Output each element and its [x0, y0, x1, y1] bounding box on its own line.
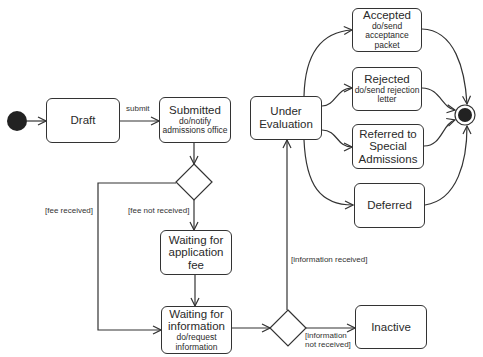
edge-deferred-final — [425, 126, 467, 205]
state-name: Rejected — [364, 73, 409, 86]
edge-referred-final — [424, 120, 455, 146]
state-name: Waiting for information — [163, 308, 231, 333]
state-name: Accepted — [363, 9, 411, 22]
state-waiting-info: Waiting for information do/request infor… — [161, 306, 232, 354]
state-under-evaluation: Under Evaluation — [250, 96, 322, 140]
state-name: Deferred — [367, 199, 412, 212]
state-name: Inactive — [371, 321, 411, 334]
label-fee-received: [fee received] — [45, 206, 93, 215]
initial-node — [7, 111, 27, 131]
state-action: do/send acceptance packet — [361, 22, 413, 51]
state-name: Submitted — [169, 104, 221, 117]
state-name: Referred to Special Admissions — [357, 128, 419, 166]
edge-eval-rejected — [322, 88, 352, 106]
edge-accepted-final — [422, 29, 467, 104]
state-name: Under Evaluation — [254, 105, 318, 130]
state-waiting-fee: Waiting for application fee — [160, 230, 232, 275]
diagram-edges — [0, 0, 483, 357]
state-name: Waiting for application fee — [161, 234, 231, 272]
state-accepted: Accepted do/send acceptance packet — [352, 8, 422, 52]
state-deferred: Deferred — [354, 183, 425, 228]
state-referred: Referred to Special Admissions — [352, 124, 424, 169]
decision-information — [270, 310, 306, 346]
state-rejected: Rejected do/send rejection letter — [352, 67, 422, 111]
label-information-not-received-line1: [information — [305, 331, 347, 340]
label-fee-not-received: [fee not received] — [128, 206, 189, 215]
final-node-core — [458, 108, 472, 122]
state-action: do/notify admissions office — [160, 117, 230, 137]
edge-eval-referred — [322, 130, 352, 147]
state-inactive: Inactive — [355, 305, 427, 349]
decision-fee — [176, 164, 212, 200]
label-information-not-received-line2: not received] — [305, 340, 351, 349]
edge-eval-accepted — [304, 30, 352, 96]
state-diagram: Draft Submitted do/notify admissions off… — [0, 0, 483, 357]
state-name: Draft — [71, 114, 96, 127]
edge-rejected-final — [422, 88, 455, 110]
state-submitted: Submitted do/notify admissions office — [159, 97, 231, 143]
edge-eval-deferred — [304, 140, 353, 205]
state-draft: Draft — [46, 98, 120, 143]
label-information-received: [information received] — [291, 255, 367, 264]
state-action: do/request information — [167, 333, 227, 353]
state-action: do/send rejection letter — [353, 86, 421, 106]
label-submit: submit — [126, 104, 150, 113]
